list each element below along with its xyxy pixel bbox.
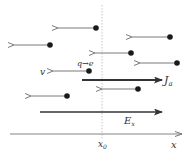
charge-label: q→e [77, 59, 94, 68]
electron-dot [64, 93, 70, 99]
drift-current-diagram: Ja Ex x x0 q→e v [0, 0, 192, 153]
electron-velocity-arrows [14, 25, 180, 99]
velocity-label: v [40, 67, 45, 77]
electron-dot [128, 50, 134, 56]
electron-dot [93, 25, 99, 31]
field-label: Ex [123, 115, 135, 128]
x0-label: x0 [98, 139, 107, 150]
electron-dot [174, 60, 180, 66]
x-axis-label: x [171, 139, 177, 150]
electron-dot [167, 34, 173, 40]
electron-dot [47, 42, 53, 48]
electron-dot [86, 68, 92, 74]
current-label: Ja [162, 74, 173, 88]
electron-dot [135, 86, 141, 92]
